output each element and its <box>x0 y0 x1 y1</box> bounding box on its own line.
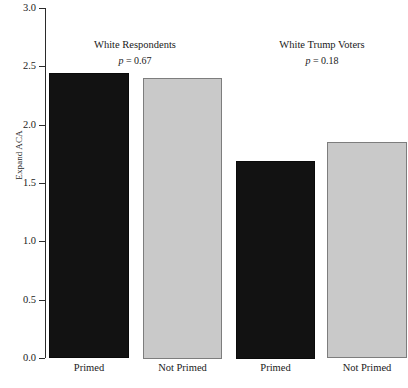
bar-not-primed-white-trump-voters <box>327 142 407 358</box>
bar-label-primed-white-respondents: Primed <box>49 362 129 374</box>
plot-area: Primed Not Primed Primed Not Primed <box>0 0 408 388</box>
bar-label-primed-white-trump-voters: Primed <box>236 362 315 374</box>
bar-primed-white-respondents <box>49 73 129 358</box>
bar-chart: Expand ACA 3.0 2.5 2.0 1.5 1.0 0.5 0.0 W… <box>0 0 408 388</box>
bar-label-not-primed-white-trump-voters: Not Primed <box>327 362 407 374</box>
bar-primed-white-trump-voters <box>236 161 315 359</box>
bar-not-primed-white-respondents <box>143 78 222 359</box>
bar-label-not-primed-white-respondents: Not Primed <box>143 362 222 374</box>
